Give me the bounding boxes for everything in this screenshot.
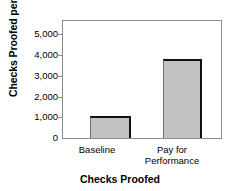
- y-tick-label-1000: 1,000: [12, 112, 58, 122]
- plot-area: [62, 20, 222, 139]
- y-tick-label-4000: 4,000: [12, 50, 58, 60]
- x-category-label-pay-for-performance: Pay for Performance: [135, 144, 209, 166]
- x-category-label-baseline: Baseline: [64, 144, 130, 155]
- bar-pay-for-performance[interactable]: [163, 59, 202, 138]
- y-tick-label-3000: 3,000: [12, 71, 58, 81]
- y-tick-label-2000: 2,000: [12, 92, 58, 102]
- y-axis-title: Checks Proofed per Hour: [6, 0, 20, 97]
- bar-baseline[interactable]: [90, 116, 131, 138]
- y-tick-label-5000: 5,000: [12, 29, 58, 39]
- y-tick-label-0: 0: [12, 133, 58, 143]
- x-axis-title: Checks Proofed: [0, 173, 240, 185]
- bar-chart-figure: Checks Proofed per Hour 5,000 4,000 3,00…: [0, 0, 240, 191]
